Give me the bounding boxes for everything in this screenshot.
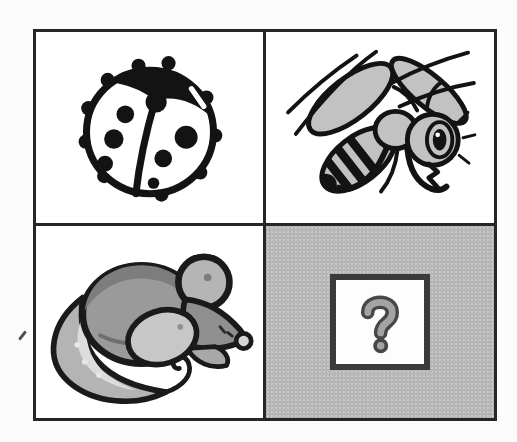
ladybug-illustration — [61, 42, 239, 214]
bee-mandible — [429, 164, 438, 187]
cell-top-right-bee — [266, 32, 494, 226]
cell-bottom-left-mouse — [36, 226, 266, 418]
cell-bottom-right-placeholder: ? — [266, 226, 494, 418]
answer-placeholder-box: ? — [330, 274, 430, 370]
mouse-ear-dot — [203, 273, 211, 281]
worksheet-page: ? — [0, 0, 517, 442]
question-mark-icon — [346, 288, 414, 356]
mouse-illustration — [45, 235, 255, 410]
mouse-nose — [236, 333, 251, 348]
mouse-muzzle-dot — [177, 323, 183, 329]
scan-artifact-mark — [18, 330, 27, 341]
bee-illustration — [282, 40, 478, 216]
puzzle-grid: ? — [33, 29, 497, 421]
cell-top-left-ladybug — [36, 32, 266, 226]
